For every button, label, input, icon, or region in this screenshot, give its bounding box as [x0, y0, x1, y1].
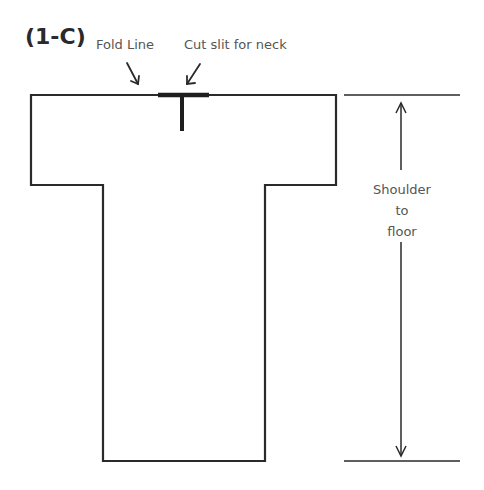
shoulder-to-floor-label: Shoulder to floor [362, 179, 442, 242]
tunic-pattern-diagram [0, 0, 484, 490]
garment-outline [31, 95, 336, 461]
measure-label-line3: floor [362, 221, 442, 242]
measure-label-line1: Shoulder [362, 179, 442, 200]
fold-line-arrow-icon [127, 63, 139, 84]
measure-label-line2: to [362, 200, 442, 221]
neck-slit-arrow-icon [187, 64, 200, 84]
